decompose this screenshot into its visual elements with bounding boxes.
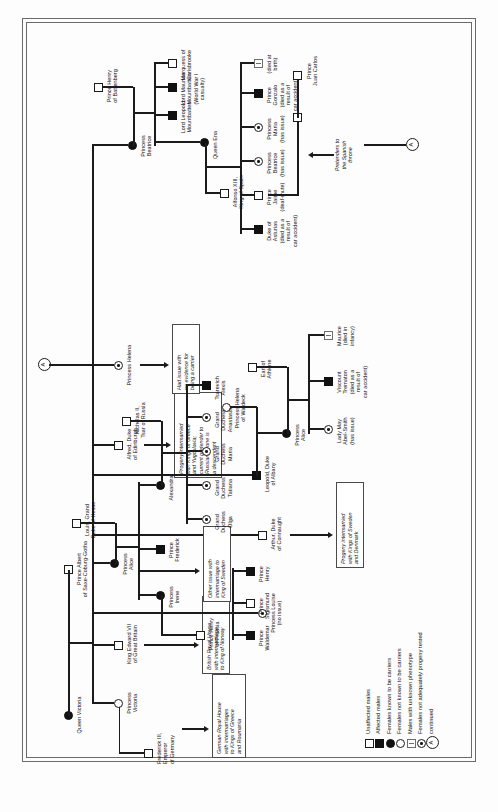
legend-row-unknown-phenotype: Males with unknown phenotype: [406, 518, 416, 748]
symbol-prince-sigismund[interactable]: [246, 599, 255, 608]
stem-princess-beatrice: [92, 144, 128, 146]
symbol-prince-waldemar[interactable]: [246, 631, 255, 640]
label-prince-frederick: Prince Frederick: [168, 524, 181, 576]
symbol-duke-of-asturias[interactable]: [254, 225, 263, 234]
marriage-line-irene-henry: [161, 595, 163, 636]
symbol-prince-jaime[interactable]: [254, 191, 263, 200]
legend-row-affected-males: Affected males: [374, 518, 384, 748]
label-alfonso-xiii: Alfonso XIII, King of Spain: [232, 158, 245, 226]
stem-gd-anastasia: [186, 416, 202, 418]
filled-circle-icon: [386, 739, 395, 748]
marriage-line-victoria-frederick: [119, 707, 121, 754]
sibship-bar-battenberg: [154, 62, 156, 146]
pedigree-page: Queen Victoria Prince Albert of Saxe-Cob…: [0, 0, 498, 812]
open-circle-icon: [396, 739, 405, 748]
marriage-line-ena-alfonso: [205, 143, 207, 194]
label-frederick-iii: Frederick III, Emperor of Germany: [156, 700, 175, 764]
label-earl-of-athlone: Earl of Athlone: [260, 340, 273, 398]
label-died-at-birth: (died at birth): [266, 40, 279, 88]
symbol-prince-henry-prussia[interactable]: [196, 631, 205, 640]
connector-a-top-stem: [49, 364, 92, 366]
symbol-gd-anastasia[interactable]: [202, 413, 211, 422]
symbol-maurice[interactable]: [324, 331, 333, 340]
stem-lord-leopold: [154, 114, 168, 116]
symbol-prince-henry[interactable]: [246, 567, 255, 576]
symbol-frederick-iii[interactable]: [144, 749, 153, 758]
question-square-icon: [407, 739, 416, 748]
stem-princess-helena: [92, 364, 114, 366]
stem-died-at-birth: [240, 62, 254, 64]
legend-label-unknown-phenotype: Males with unknown phenotype: [406, 653, 416, 734]
legend-label-affected-males: Affected males: [374, 696, 384, 734]
label-queen-victoria: Queen Victoria: [76, 674, 82, 756]
symbol-alfred-edinburgh[interactable]: [114, 441, 123, 450]
symbol-lady-may[interactable]: [324, 425, 333, 434]
stem-princess-beatrice-spain: [240, 160, 254, 162]
stem-prince-henry: [232, 570, 246, 572]
symbol-prince-juan-carlos[interactable]: [293, 71, 302, 80]
stem-king-edward-vii: [92, 644, 114, 646]
sibship-drop-athlone: [287, 399, 309, 401]
legend-label-unaffected-males: Unaffected males: [364, 689, 374, 734]
sibship-drop-gen1: [68, 642, 92, 644]
symbol-princess-helena[interactable]: [114, 361, 123, 370]
legend-row-not-progeny-tested: Females not adequately progeny tested: [416, 518, 426, 748]
legend-label-not-progeny-tested: Females not adequately progeny tested: [416, 632, 426, 734]
link-jaime-juancarlos: [297, 118, 299, 196]
connector-a-bottom-stem: [364, 144, 406, 146]
sibship-bar-romanov: [186, 384, 188, 524]
sibship-bar-alice-hesse: [138, 482, 140, 600]
symbol-alfonso-xiii[interactable]: [220, 189, 229, 198]
stem-prince-henry-battenberg: [102, 86, 133, 88]
stem-gd-tatiana: [186, 484, 202, 486]
stem-princess-maria: [240, 126, 254, 128]
label-princess-helena: Princess Helena: [126, 330, 132, 400]
stem-other-issue: [138, 570, 182, 572]
symbol-arthur-connaught[interactable]: [258, 531, 267, 540]
note-pretenders-spain: Pretenders to the Spanish throne: [334, 118, 354, 192]
label-prince-henry: Prince Henry: [258, 550, 271, 598]
rotated-canvas-wrapper: Queen Victoria Prince Albert of Saxe-Cob…: [0, 0, 498, 812]
sibship-drop-battenberg: [133, 112, 155, 114]
symbol-gd-tatiana[interactable]: [202, 481, 211, 490]
symbol-princess-maria[interactable]: [254, 123, 263, 132]
symbol-prince-frederick[interactable]: [156, 545, 165, 554]
stem-princess-victoria: [92, 702, 114, 704]
legend-label-females-not-carriers: Females not known to be carriers: [395, 648, 405, 734]
note-german-royal-house: German Royal House with intermarriages t…: [212, 674, 246, 758]
sibship-drop-romanov: [161, 452, 187, 454]
marriage-line-leopold-helena: [256, 407, 258, 476]
stem-nicholas-ii: [130, 420, 161, 422]
connector-a-bottom: A: [406, 138, 419, 151]
symbol-gd-maria[interactable]: [202, 447, 211, 456]
stem-maurice: [308, 334, 324, 336]
stem-jaime-descent: [268, 194, 298, 196]
stem-alexandra: [138, 484, 156, 486]
link-juancarlos: [297, 76, 299, 118]
label-arthur-connaught: Arthur, Duke of Connaught: [270, 500, 283, 568]
legend-label-continued: continued: [427, 709, 437, 734]
symbol-tsarevich-alexis[interactable]: [202, 381, 211, 390]
stem-gd-maria: [186, 450, 202, 452]
stem-princess-irene: [138, 594, 156, 596]
label-princess-louise: Princess Louise (no issue): [270, 578, 283, 648]
stem-frederick-iii: [119, 752, 145, 754]
symbol-princess-beatrice-spain[interactable]: [254, 157, 263, 166]
symbol-prince-gonzalo[interactable]: [254, 89, 263, 98]
stem-duke-of-asturias: [240, 228, 254, 230]
symbol-lord-leopold[interactable]: [168, 111, 177, 120]
stem-prince-sigismund: [232, 602, 246, 604]
symbol-died-at-birth[interactable]: [254, 59, 263, 68]
stem-viscount-trematon: [308, 380, 324, 382]
label-marquess-carisbrooke: Marquess of Carisbrooke: [180, 38, 193, 92]
label-king-edward-vii: King Edward VII of Great Britain: [126, 608, 139, 680]
legend: Unaffected males Affected males Females …: [364, 518, 439, 748]
symbol-gd-olga[interactable]: [202, 515, 211, 524]
symbol-king-edward-vii[interactable]: [114, 641, 123, 650]
legend-row-continued: A continued: [426, 518, 439, 748]
stem-queen-ena: [154, 141, 200, 143]
symbol-lord-maurice[interactable]: [168, 83, 177, 92]
stem-lord-maurice: [154, 86, 168, 88]
symbol-viscount-trematon[interactable]: [324, 377, 333, 386]
symbol-marquess-carisbrooke[interactable]: [168, 59, 177, 68]
